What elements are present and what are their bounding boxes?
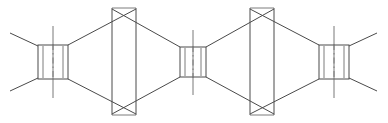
leg-lower-right-line [349,78,377,91]
assembly-line-drawing [0,0,388,123]
left-cone-bottom-expand [68,79,136,114]
leg-upper-right-line [349,33,377,46]
leg-lower-left-line [10,78,38,91]
right-cone-top-expand [206,9,274,47]
left-cone-bottom-contract [112,77,180,114]
right-cone-bottom-expand [206,77,274,114]
left-cone-top-contract [112,9,180,47]
leg-upper-left-line [10,33,38,46]
drawing-canvas [0,0,388,123]
left-cone-top-expand [68,9,136,45]
right-cone-bottom-contract [250,79,319,114]
right-cone-top-contract [250,9,319,45]
